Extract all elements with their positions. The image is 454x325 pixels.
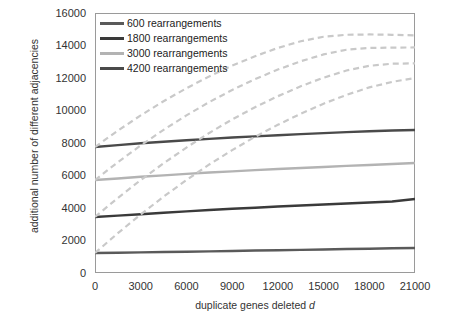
y-axis-tick-label: 2000	[40, 235, 86, 246]
legend-item[interactable]: 4200 rearrangements	[100, 61, 227, 75]
x-axis-tick-label: 6000	[174, 281, 198, 292]
chart-series-line	[95, 130, 415, 147]
y-axis-tick-label: 8000	[40, 138, 86, 149]
legend-item[interactable]: 3000 rearrangements	[100, 46, 227, 60]
legend-item-label: 600 rearrangements	[127, 18, 222, 29]
x-axis-title-text: duplicate genes deleted	[195, 299, 309, 311]
y-axis-tick-label: 10000	[40, 105, 86, 116]
y-axis-tick-label: 12000	[40, 73, 86, 84]
legend-item-label: 3000 rearrangements	[127, 48, 227, 59]
x-axis-tick-label: 12000	[263, 281, 294, 292]
legend-item-label: 1800 rearrangements	[127, 33, 227, 44]
legend-swatch-icon	[100, 37, 124, 40]
chart-container: additional number of different adjacenci…	[0, 0, 454, 325]
legend-item[interactable]: 600 rearrangements	[100, 16, 227, 30]
x-axis-tick-label: 15000	[308, 281, 339, 292]
chart-legend: 600 rearrangements1800 rearrangements300…	[100, 16, 227, 76]
y-axis-tick-label: 0	[40, 268, 86, 279]
x-axis-tick-label: 18000	[354, 281, 385, 292]
chart-series-line	[95, 248, 415, 253]
legend-item[interactable]: 1800 rearrangements	[100, 31, 227, 45]
y-axis-tick-labels: 0200040006000800010000120001400016000	[30, 0, 86, 325]
y-axis-tick-label: 4000	[40, 203, 86, 214]
x-axis-tick-label: 9000	[220, 281, 244, 292]
legend-swatch-icon	[100, 22, 124, 25]
y-axis-tick-label: 16000	[40, 8, 86, 19]
x-axis-title: duplicate genes deleted d	[95, 299, 415, 311]
chart-series-line	[95, 199, 415, 217]
x-axis-title-variable: d	[309, 299, 315, 311]
legend-swatch-icon	[100, 67, 124, 70]
legend-swatch-icon	[100, 52, 124, 55]
x-axis-tick-label: 3000	[128, 281, 152, 292]
x-axis-tick-label: 21000	[400, 281, 431, 292]
x-axis-tick-label: 0	[92, 281, 98, 292]
y-axis-tick-label: 14000	[40, 40, 86, 51]
legend-item-label: 4200 rearrangements	[127, 63, 227, 74]
chart-series-line	[95, 63, 415, 217]
y-axis-tick-label: 6000	[40, 170, 86, 181]
